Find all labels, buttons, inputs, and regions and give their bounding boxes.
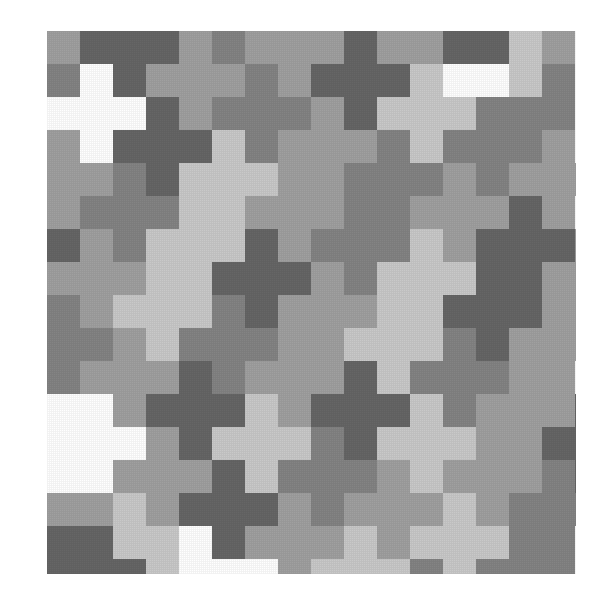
- pattern-cell: [146, 559, 179, 574]
- pattern-cell: [113, 559, 146, 574]
- plus-tile-vertical-bar: [212, 31, 245, 64]
- plus-tile-vertical-bar: [344, 31, 377, 130]
- plus-tile-vertical-bar: [80, 394, 113, 493]
- pattern-cell: [476, 64, 509, 97]
- pattern-cell: [80, 526, 113, 559]
- plus-tile-vertical-bar: [542, 130, 575, 229]
- pattern-cell: [542, 64, 575, 97]
- pattern-cell: [542, 31, 575, 64]
- plus-tile: [377, 559, 476, 574]
- plus-tile: [476, 526, 575, 574]
- pattern-cell: [509, 64, 542, 97]
- pattern-cell: [509, 31, 542, 64]
- pattern-cell: [146, 526, 179, 559]
- plus-tile-horizontal-bar: [542, 427, 576, 460]
- pattern-cell: [113, 526, 146, 559]
- plus-tile-vertical-bar: [278, 493, 311, 574]
- cross-tessellation-pattern: [47, 31, 576, 574]
- pattern-cell: [47, 559, 80, 574]
- plus-tile-horizontal-bar: [542, 262, 576, 295]
- plus-tile-vertical-bar: [344, 526, 377, 574]
- pattern-cell: [47, 526, 80, 559]
- pattern-cell: [542, 97, 575, 130]
- artwork-frame: [0, 0, 599, 594]
- pattern-cell: [80, 559, 113, 574]
- pattern-cell: [47, 493, 80, 526]
- plus-tile-vertical-bar: [410, 64, 443, 163]
- plus-tile-vertical-bar: [47, 295, 80, 394]
- pattern-cell: [476, 31, 509, 64]
- pattern-cell: [179, 559, 212, 574]
- pattern-canvas-wrap: [47, 31, 576, 574]
- plus-tile-vertical-bar: [410, 559, 443, 574]
- pattern-cell: [80, 493, 113, 526]
- plus-tile-vertical-bar: [509, 526, 542, 574]
- pattern-cell: [410, 31, 443, 64]
- plus-tile-vertical-bar: [212, 460, 245, 559]
- plus-tile-vertical-bar: [146, 427, 179, 526]
- pattern-cell: [443, 31, 476, 64]
- plus-tile: [509, 130, 576, 229]
- plus-tile-vertical-bar: [476, 97, 509, 196]
- pattern-cell: [212, 559, 245, 574]
- plus-tile-vertical-bar: [278, 31, 311, 97]
